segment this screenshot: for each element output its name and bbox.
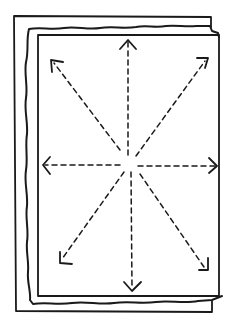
arrowhead-up-left-icon [51, 60, 63, 72]
arrowhead-up-right-icon [197, 58, 208, 68]
arrowhead-down-right-icon [199, 258, 208, 270]
arrowheads [43, 40, 217, 291]
stretch-diagram [0, 0, 236, 329]
dashed-rays [45, 42, 215, 287]
diagram-canvas [0, 0, 236, 329]
